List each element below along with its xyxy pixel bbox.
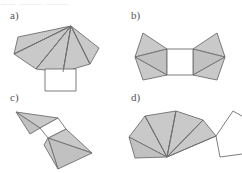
figure-panel-b: b) <box>121 7 242 93</box>
figure-b-drawing <box>121 7 242 93</box>
figure-sheet: —— ——— ——— a) b) c) d) <box>0 0 242 173</box>
figure-b-square-face <box>167 49 193 75</box>
figure-panel-a: a) <box>0 7 121 93</box>
figure-a-square-face <box>45 69 76 91</box>
figure-d-drawing <box>121 89 242 173</box>
figure-panel-c: c) <box>0 89 121 173</box>
figure-a-drawing <box>0 7 121 93</box>
figure-d-pentagon-face <box>216 111 242 157</box>
figure-c-drawing <box>0 89 121 173</box>
figure-panel-d: d) <box>121 89 242 173</box>
top-edge-artifact-text: —— ——— ——— <box>0 0 242 7</box>
